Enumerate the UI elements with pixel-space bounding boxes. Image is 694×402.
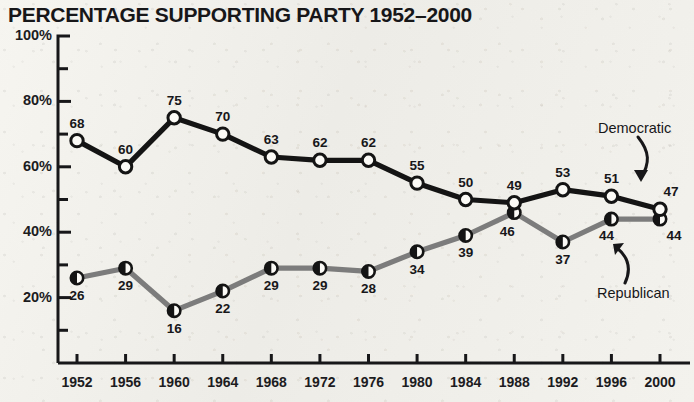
data-value-label: 46 [490,224,524,239]
x-axis-tick-label: 1992 [538,374,588,390]
data-value-label: 44 [589,228,623,243]
data-point-republican-1964 [217,285,229,297]
data-point-democratic-1972 [314,154,326,166]
data-value-label: 26 [60,288,94,303]
x-axis-tick-label: 2000 [635,374,685,390]
data-point-democratic-1996 [605,190,617,202]
data-point-republican-1984 [459,229,471,241]
x-axis-tick-label: 1956 [101,374,151,390]
data-point-democratic-2000 [654,203,666,215]
republican-arrow-curve [617,248,628,283]
data-point-democratic-1988 [508,197,520,209]
democratic-arrow-head [634,170,648,182]
x-axis-tick-label: 1976 [344,374,394,390]
data-point-democratic-1980 [411,177,423,189]
data-point-republican-1996 [605,213,617,225]
data-value-label: 47 [654,184,688,199]
series-annotation-republican: Republican [597,285,670,301]
data-value-label: 60 [109,142,143,157]
data-point-republican-1968 [265,262,277,274]
data-value-label: 37 [546,252,580,267]
data-value-label: 75 [157,93,191,108]
chart-svg [0,0,694,402]
x-axis-tick-label: 1968 [246,374,296,390]
data-value-label: 39 [449,245,483,260]
x-axis-tick-label: 1996 [586,374,636,390]
y-axis-tick-label: 40% [0,223,52,239]
data-value-label: 29 [254,278,288,293]
data-point-democratic-1952 [71,134,83,146]
data-value-label: 29 [303,278,337,293]
data-value-label: 44 [657,228,691,243]
y-axis-tick-label: 60% [0,158,52,174]
x-axis-tick-label: 1972 [295,374,345,390]
data-point-democratic-1968 [265,151,277,163]
x-axis-tick-label: 1952 [52,374,102,390]
data-value-label: 62 [303,135,337,150]
data-point-republican-1992 [557,236,569,248]
data-value-label: 50 [449,175,483,190]
data-value-label: 51 [594,171,628,186]
data-point-democratic-1992 [557,183,569,195]
data-point-democratic-1964 [217,128,229,140]
data-point-republican-1952 [71,272,83,284]
data-point-republican-1980 [411,246,423,258]
series-annotation-democratic: Democratic [598,120,671,136]
data-value-label: 53 [546,165,580,180]
data-value-label: 22 [206,301,240,316]
x-axis-tick-label: 1964 [198,374,248,390]
data-value-label: 70 [206,109,240,124]
data-value-label: 16 [157,321,191,336]
y-axis-tick-label: 20% [0,289,52,305]
data-point-democratic-1956 [119,161,131,173]
data-point-democratic-1976 [362,154,374,166]
data-value-label: 68 [60,116,94,131]
data-point-democratic-1960 [168,112,180,124]
x-axis-tick-label: 1988 [489,374,539,390]
data-value-label: 63 [254,132,288,147]
data-value-label: 29 [109,278,143,293]
y-axis-tick-label: 80% [0,92,52,108]
y-axis-tick-label: 100% [0,27,52,43]
data-point-democratic-1984 [459,193,471,205]
data-point-republican-1956 [119,262,131,274]
x-axis-tick-label: 1980 [392,374,442,390]
data-value-label: 55 [400,158,434,173]
chart-plot-area [0,0,694,402]
data-value-label: 28 [352,281,386,296]
data-value-label: 62 [352,135,386,150]
data-point-republican-1960 [168,304,180,316]
data-point-republican-1976 [362,265,374,277]
data-value-label: 34 [400,262,434,277]
x-axis-tick-label: 1984 [441,374,491,390]
data-point-republican-1972 [314,262,326,274]
x-axis-tick-label: 1960 [149,374,199,390]
data-value-label: 49 [497,178,531,193]
